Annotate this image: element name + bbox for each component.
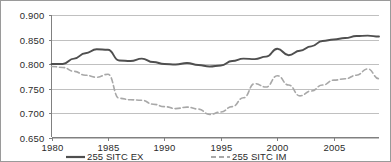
x-tick-label-1980: 1980 bbox=[42, 142, 64, 153]
y-tick-label-0.900: 0.900 bbox=[20, 10, 45, 21]
x-tick-label-2005: 2005 bbox=[324, 142, 346, 153]
y-tick-label-0.750: 0.750 bbox=[20, 84, 45, 95]
legend-label-255-sitc-ex: 255 SITC EX bbox=[87, 151, 144, 162]
y-tick-label-0.850: 0.850 bbox=[20, 35, 45, 46]
legend-label-255-sitc-im: 255 SITC IM bbox=[232, 151, 286, 162]
line-chart: 0.6500.7000.7500.8000.8500.900 198019851… bbox=[1, 1, 391, 162]
chart-figure: 0.6500.7000.7500.8000.8500.900 198019851… bbox=[0, 0, 391, 162]
y-tick-label-0.800: 0.800 bbox=[20, 59, 45, 70]
y-tick-label-0.700: 0.700 bbox=[20, 108, 45, 119]
x-tick-label-1995: 1995 bbox=[211, 142, 233, 153]
x-tick-label-1990: 1990 bbox=[154, 142, 176, 153]
